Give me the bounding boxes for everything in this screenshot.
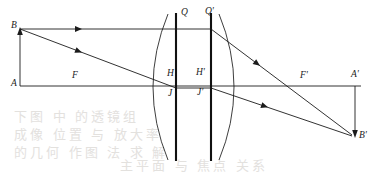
arrow-on-oblique-incident-icon xyxy=(74,47,83,55)
principal-planes xyxy=(176,13,211,161)
arrow-on-parallel-incident-icon xyxy=(75,26,82,32)
arrow-on-parallel-emergent-icon xyxy=(253,59,262,68)
label-principal-point-back: H' xyxy=(196,68,205,78)
label-plane-top-front: Q xyxy=(181,8,188,18)
label-plane-low-back: J' xyxy=(197,88,203,98)
ray-oblique xyxy=(20,29,352,136)
ray-diagram-canvas xyxy=(0,0,381,172)
label-principal-point-front: H xyxy=(167,69,174,79)
ray-oblique-incident-segment xyxy=(20,29,176,88)
object-arrow xyxy=(17,27,23,86)
image-arrow xyxy=(352,86,358,138)
label-back-focus: F' xyxy=(300,71,308,81)
arrow-on-oblique-emergent-icon xyxy=(260,102,269,110)
lens-body xyxy=(153,14,234,160)
ray-diagram-figure: 下图 中 的透镜组 成像 位置 与 放大率 的几何 作图 法 求 解 主平面 与… xyxy=(0,0,381,172)
label-plane-top-back: Q' xyxy=(205,7,214,17)
image-arrow-head xyxy=(352,130,358,138)
lens-surface-back-arc xyxy=(219,14,234,160)
label-object-top: B xyxy=(11,21,17,31)
object-arrow-head xyxy=(17,27,23,35)
label-object-base: A xyxy=(11,79,17,89)
label-image-base: A' xyxy=(351,70,359,80)
label-front-focus: F xyxy=(72,71,78,81)
label-image-top: B' xyxy=(359,131,367,141)
lens-surface-front-arc xyxy=(153,14,168,160)
ray-parallel-emergent-segment xyxy=(211,29,352,135)
label-plane-low-front: J xyxy=(168,89,172,99)
